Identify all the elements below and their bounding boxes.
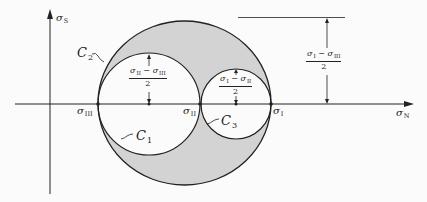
shaded-region: [98, 21, 271, 185]
vertical-axis-arrow-icon: [47, 9, 53, 19]
point-sigma-iii: [96, 102, 100, 106]
radius-label-c3: σI − σII 2: [219, 75, 252, 96]
label-sigma-iii: σIII: [77, 106, 93, 118]
arrow-up-icon: [325, 18, 329, 23]
label-c2: C2: [77, 46, 93, 62]
label-sigma-i: σI: [273, 106, 283, 118]
point-sigma-ii: [198, 102, 202, 106]
label-c1: C1: [136, 129, 152, 145]
label-sigma-ii: σII: [183, 106, 196, 118]
vertical-axis-label: σS: [56, 13, 68, 25]
mohr-diagram: [0, 0, 427, 202]
label-c3: C3: [221, 114, 237, 130]
horizontal-axis-arrow-icon: [404, 101, 414, 107]
radius-label-c1: σII − σIII 2: [129, 67, 167, 88]
radius-label-c2: σI − σIII 2: [306, 50, 341, 71]
leader-c2: [92, 53, 104, 62]
arrow-down-icon: [325, 99, 329, 104]
horizontal-axis-label: σN: [396, 108, 410, 120]
